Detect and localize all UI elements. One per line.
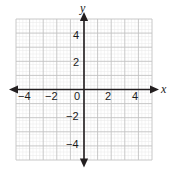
x-axis-left-arrow xyxy=(9,85,18,93)
y-tick-label-neg4: −4 xyxy=(66,139,79,150)
x-tick-label-neg2: −2 xyxy=(45,91,58,102)
y-tick-label-neg2: −2 xyxy=(66,111,79,122)
x-tick-label-neg4: −4 xyxy=(18,91,31,102)
y-tick-label-pos2: 2 xyxy=(73,57,79,68)
origin-label: 0 xyxy=(74,91,80,102)
x-tick-label-pos4: 4 xyxy=(132,91,138,102)
coordinate-plane: −4 −2 0 2 4 4 2 −2 −4 y x xyxy=(0,0,171,169)
coordinate-grid-svg xyxy=(0,0,171,169)
y-tick-label-pos4: 4 xyxy=(73,30,79,41)
y-axis-down-arrow xyxy=(80,159,88,168)
x-axis-right-arrow xyxy=(150,85,159,93)
x-axis-name: x xyxy=(161,83,166,95)
x-tick-label-pos2: 2 xyxy=(105,91,111,102)
y-axis-name: y xyxy=(80,2,85,14)
